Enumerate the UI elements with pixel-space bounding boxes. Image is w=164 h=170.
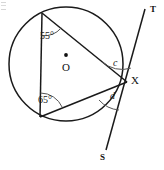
chord-top-to-x	[42, 13, 127, 82]
angle-label-55: 55°	[40, 31, 54, 41]
point-label-t: T	[150, 5, 156, 14]
point-label-s: S	[100, 153, 105, 162]
angle-label-d: d	[110, 91, 115, 101]
angle-label-65: 65°	[38, 95, 52, 105]
circle-tangent-figure	[0, 0, 164, 170]
point-label-x: X	[131, 75, 139, 86]
centre-label-o: O	[62, 62, 70, 73]
centre-dot	[64, 53, 68, 57]
angle-label-c: c	[113, 58, 117, 68]
geometry-diagram-page: 55° 65° c d O X T S	[0, 0, 164, 170]
